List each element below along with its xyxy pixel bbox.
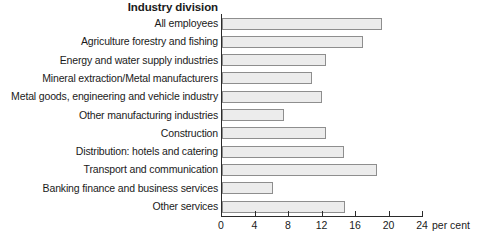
bar bbox=[222, 72, 312, 84]
x-axis-tick-label: 0 bbox=[218, 219, 224, 231]
bar bbox=[222, 18, 382, 30]
bar-category-label: Other manufacturing industries bbox=[79, 109, 218, 122]
bar bbox=[222, 127, 326, 139]
bar-category-label: Transport and communication bbox=[84, 163, 218, 176]
bar-row: Banking finance and business services bbox=[0, 180, 485, 198]
x-axis-tick-label: 12 bbox=[316, 219, 328, 231]
x-axis-tick bbox=[422, 211, 423, 217]
x-axis-tick-label: 16 bbox=[349, 219, 361, 231]
bar-category-label: Other services bbox=[152, 200, 218, 213]
bar bbox=[222, 109, 284, 121]
x-axis-tick bbox=[221, 211, 222, 217]
bar bbox=[222, 164, 377, 176]
bar-category-label: All employees bbox=[155, 17, 218, 30]
bar-row: Energy and water supply industries bbox=[0, 52, 485, 70]
bar-category-label: Construction bbox=[161, 127, 218, 140]
bar-row: Mineral extraction/Metal manufacturers bbox=[0, 70, 485, 88]
chart-title: Industry division bbox=[0, 1, 218, 14]
bar-category-label: Banking finance and business services bbox=[43, 182, 218, 195]
x-axis-tick-label: 24 bbox=[416, 219, 428, 231]
bar-row: Other manufacturing industries bbox=[0, 107, 485, 125]
x-axis-tick-label: 8 bbox=[285, 219, 291, 231]
bar-chart: Industry division All employeesAgricultu… bbox=[0, 0, 485, 249]
bar-category-label: Distribution: hotels and catering bbox=[76, 145, 218, 158]
bar bbox=[222, 182, 273, 194]
x-axis-tick bbox=[355, 211, 356, 217]
x-axis-tick bbox=[389, 211, 390, 217]
x-axis-unit-label: per cent bbox=[432, 219, 470, 231]
x-axis-tick bbox=[255, 211, 256, 217]
x-axis-tick bbox=[288, 211, 289, 217]
bar bbox=[222, 91, 322, 103]
x-axis-tick bbox=[322, 211, 323, 217]
bar bbox=[222, 201, 345, 213]
bar-row: Transport and communication bbox=[0, 161, 485, 179]
bar bbox=[222, 36, 363, 48]
x-axis-tick-label: 4 bbox=[252, 219, 258, 231]
bar-row: Other services bbox=[0, 198, 485, 216]
bar-row: Construction bbox=[0, 125, 485, 143]
bar-category-label: Metal goods, engineering and vehicle ind… bbox=[11, 90, 218, 103]
bar-row: Agriculture forestry and fishing bbox=[0, 33, 485, 51]
bar bbox=[222, 54, 326, 66]
bar-category-label: Energy and water supply industries bbox=[60, 54, 218, 67]
bar-row: All employees bbox=[0, 15, 485, 33]
bar-row: Distribution: hotels and catering bbox=[0, 143, 485, 161]
plot-area: All employeesAgriculture forestry and fi… bbox=[0, 14, 485, 219]
bar-row: Metal goods, engineering and vehicle ind… bbox=[0, 88, 485, 106]
bar-category-label: Agriculture forestry and fishing bbox=[81, 35, 218, 48]
x-axis-tick-label: 20 bbox=[383, 219, 395, 231]
bar-category-label: Mineral extraction/Metal manufacturers bbox=[42, 72, 218, 85]
bar bbox=[222, 146, 344, 158]
